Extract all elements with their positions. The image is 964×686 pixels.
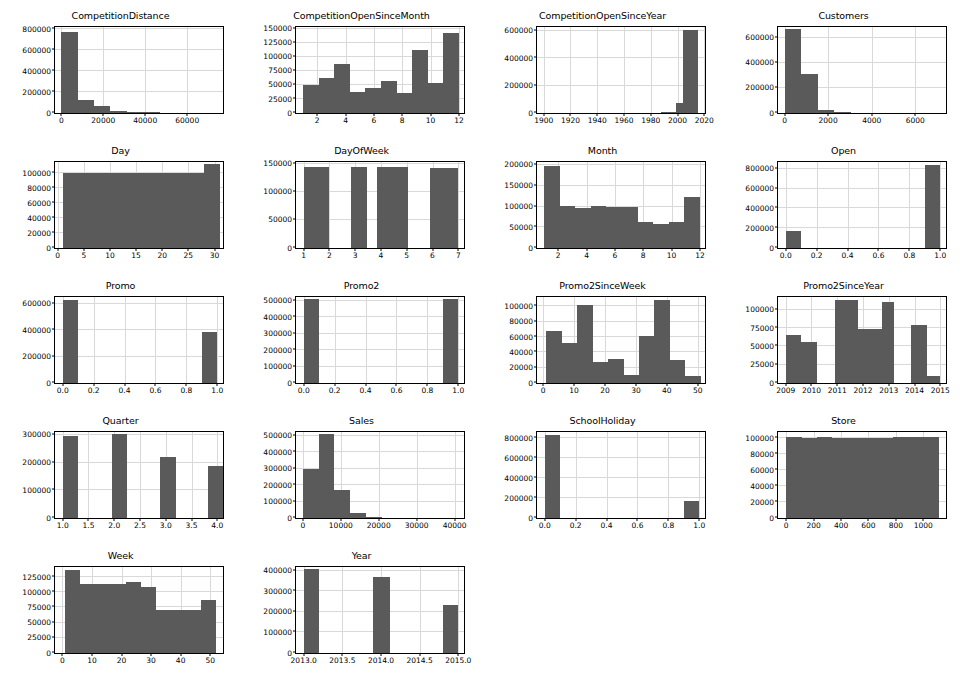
x-tick-label: 1900 [534,113,553,125]
x-tick-label: 2013 [879,383,898,395]
axes: 02000004000006000000200040006000 [777,26,947,114]
bar-series [55,432,223,518]
bar-series [778,162,946,248]
histogram-bar [96,584,111,653]
histogram-bar [63,436,78,518]
x-tick-label: 0 [784,518,789,530]
x-tick-label: 2014.0 [368,653,394,665]
x-tick-label: 8 [641,248,646,260]
x-tick-label: 20 [157,248,167,260]
histogram-bar [63,300,78,383]
x-tick-label: 4 [379,248,384,260]
y-tick-label: 100000 [504,303,537,311]
axes: 01000002000003000004000002013.02013.5201… [295,566,465,654]
y-tick-label: 300000 [22,431,55,439]
y-tick-label: 100000 [745,306,778,314]
y-tick-label: 0 [528,514,537,522]
y-tick-label: 200000 [22,353,55,361]
y-tick-label: 400000 [263,448,296,456]
histogram-bar [577,305,592,383]
y-tick-label: 200000 [504,161,537,169]
histogram-bar [112,434,127,518]
y-tick-label: 60000 [750,466,778,474]
subplot-day: Day0200004000060000800001000000510152025… [0,143,241,278]
y-tick-label: 25000 [27,634,55,642]
x-tick-label: 30 [631,383,641,395]
histogram-bar [303,469,319,518]
y-tick-label: 400000 [263,567,296,575]
bar-series [778,432,946,518]
x-tick-label: 2020 [695,113,714,125]
axes: 0250005000075000100000200920102011201220… [777,296,947,384]
bar-series [55,162,223,248]
y-tick-label: 600000 [504,454,537,462]
y-tick-label: 300000 [263,330,296,338]
subplot-title: CompetitionDistance [0,10,241,21]
subplot-title: Open [723,145,964,156]
histogram-bar [430,168,458,248]
y-tick-label: 200000 [504,82,537,90]
histogram-bar [683,30,698,113]
y-tick-label: 40000 [27,214,55,222]
y-tick-label: 200000 [22,459,55,467]
bar-series [296,162,464,248]
histogram-bar [545,435,560,519]
y-tick-label: 800000 [504,434,537,442]
x-tick-label: 1980 [641,113,660,125]
histogram-bar [65,570,80,653]
histogram-bar [78,100,94,113]
histogram-bar [303,85,319,113]
histogram-bar [685,376,700,383]
x-tick-label: 200 [806,518,820,530]
histogram-bar [126,173,142,248]
subplot-month: Month05000010000015000020000024681012 [482,143,723,278]
plot-area: 02000004000006000008000000.00.20.40.60.8… [723,157,964,275]
histogram-bar [304,569,319,653]
bar-series [55,567,223,653]
histogram-bar [624,375,639,383]
x-tick-label: 0.8 [662,518,674,530]
y-tick-label: 125000 [22,573,55,581]
y-tick-label: 100000 [504,203,537,211]
x-tick-label: 15 [131,248,141,260]
subplot-year: Year01000002000003000004000002013.02013.… [241,548,482,683]
bar-series [296,297,464,383]
histogram-bar [304,299,319,383]
y-tick-label: 0 [46,514,55,522]
axes: 0500001000001500001234567 [295,161,465,249]
x-tick-label: 1940 [588,113,607,125]
histogram-bar [835,300,858,383]
bar-series [537,432,705,518]
x-tick-label: 1 [301,248,306,260]
histogram-bar [927,376,940,383]
histogram-grid: CompetitionDistance020000040000060000080… [0,0,964,686]
histogram-bar [546,331,561,383]
x-tick-label: 1960 [614,113,633,125]
y-tick-label: 500000 [263,297,296,305]
y-tick-label: 300000 [263,588,296,596]
histogram-bar [893,437,908,518]
subplot-promo: Promo02000004000006000000.00.20.40.60.81… [0,278,241,413]
x-tick-label: 0.8 [421,383,433,395]
plot-area: 02000004000006000008000000.00.20.40.60.8… [482,427,723,545]
subplot-promo2sinceyear: Promo2SinceYear0250005000075000100000200… [723,278,964,413]
subplot-customers: Customers0200000400000600000020004000600… [723,8,964,143]
x-tick-label: 2011 [828,383,847,395]
y-tick-label: 800000 [22,25,55,33]
plot-area: 025000500007500010000012500001020304050 [0,562,241,680]
x-tick-label: 0.2 [88,383,100,395]
x-tick-label: 0 [300,518,305,530]
plot-area: 0500001000001500001234567 [241,157,482,275]
x-tick-label: 40 [662,383,672,395]
x-tick-label: 2000 [668,113,687,125]
histogram-bar [157,173,173,248]
x-tick-label: 12 [454,113,464,125]
x-tick-label: 1.5 [83,518,95,530]
y-tick-label: 20000 [750,498,778,506]
histogram-bar [111,584,126,653]
x-tick-label: 1000 [914,518,933,530]
x-tick-label: 0.2 [329,383,341,395]
y-tick-label: 150000 [504,182,537,190]
x-tick-label: 3.5 [186,518,198,530]
y-tick-label: 80000 [509,318,537,326]
